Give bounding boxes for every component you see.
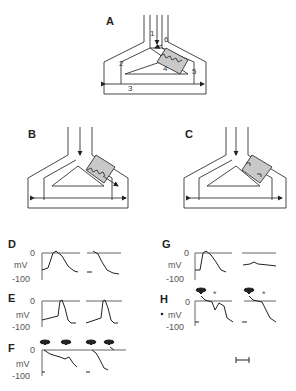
panel-f: F 0 mV -100 [8, 340, 126, 381]
axis-unit: mV [16, 310, 30, 320]
panel-label-h: H [160, 293, 168, 305]
stimulus-marker-icon [42, 342, 112, 345]
panel-e: E 0 mV -100 [8, 292, 122, 332]
panel-c: C [184, 127, 286, 208]
panel-a: A 1 2 3 4 5 6 [104, 15, 206, 94]
panel-b: B [28, 127, 128, 208]
panel-label-c: C [185, 128, 193, 140]
panel-label-g: G [162, 238, 171, 250]
axis-min: -100 [12, 274, 30, 284]
asterisk-marker: * [213, 289, 217, 299]
stimulus-marker-icon [198, 291, 204, 294]
axis-zero: 0 [30, 345, 35, 355]
panel-g: G 0 mV -100 [162, 238, 276, 284]
segment-number: 2 [119, 59, 124, 68]
axis-zero: 0 [30, 296, 35, 306]
panel-label-a: A [106, 15, 114, 27]
axis-zero: 0 [185, 297, 190, 307]
axis-unit: mV [14, 260, 28, 270]
segment-number: 4 [163, 64, 168, 73]
axis-unit: mV [168, 310, 182, 320]
panel-label-b: B [28, 128, 36, 140]
panel-h: H 0 mV -100 * * [160, 288, 276, 332]
stimulus-marker-icon [246, 291, 252, 294]
axis-zero: 0 [30, 248, 35, 258]
axis-unit: mV [16, 359, 30, 369]
segment-number: 1 [150, 29, 155, 38]
axis-unit: mV [168, 260, 182, 270]
panel-d: D 0 mV -100 [8, 238, 121, 284]
axis-min: -100 [12, 371, 30, 381]
axis-min: -100 [166, 322, 184, 332]
segment-number: 3 [128, 84, 133, 93]
segment-number: 5 [192, 67, 197, 76]
axis-min: -100 [12, 322, 30, 332]
panel-label-d: D [8, 238, 16, 250]
axis-zero: 0 [184, 248, 189, 258]
panel-label-f: F [8, 342, 15, 354]
time-scale-bar [236, 357, 249, 363]
segment-number: 6 [164, 35, 169, 44]
figure: A 1 2 3 4 5 6 B C D [0, 0, 296, 391]
panel-label-e: E [8, 292, 15, 304]
asterisk-marker: * [262, 289, 266, 299]
axis-min: -100 [166, 274, 184, 284]
